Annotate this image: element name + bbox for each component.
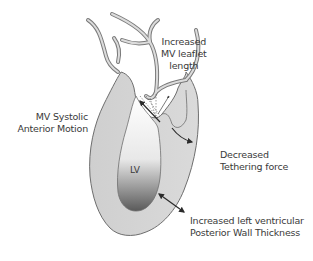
lv-label: LV <box>130 164 140 176</box>
label-wall-line2: Posterior Wall Thickness <box>190 227 304 239</box>
label-tethering: Decreased Tethering force <box>220 149 288 173</box>
label-tethering-line2: Tethering force <box>220 161 288 173</box>
label-sam-line2: Anterior Motion <box>8 123 88 135</box>
label-sam: MV Systolic Anterior Motion <box>8 111 88 135</box>
label-sam-line1: MV Systolic <box>8 111 88 123</box>
label-leaflet-line3: length <box>161 60 207 72</box>
label-leaflet-length: Increased MV leaflet length <box>161 36 207 72</box>
label-tethering-line1: Decreased <box>220 149 288 161</box>
label-leaflet-line2: MV leaflet <box>161 48 207 60</box>
label-wall-thickness: Increased left ventricular Posterior Wal… <box>190 215 304 239</box>
label-wall-line1: Increased left ventricular <box>190 215 304 227</box>
label-leaflet-line1: Increased <box>161 36 207 48</box>
